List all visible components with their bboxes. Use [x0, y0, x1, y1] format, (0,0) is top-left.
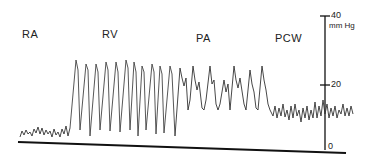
y-tick-label-0: 0 — [328, 141, 333, 151]
pa-trace — [175, 66, 270, 136]
y-tick-label-40: 40 — [331, 10, 341, 20]
label-pa: PA — [196, 32, 211, 44]
rv-trace — [70, 60, 175, 136]
y-tick-label-20: 20 — [331, 79, 341, 89]
y-unit-label: mm Hg — [329, 21, 355, 30]
label-rv: RV — [102, 28, 118, 40]
pressure-tracing-chart — [0, 0, 372, 167]
baseline — [18, 142, 346, 153]
label-pcw: PCW — [275, 32, 302, 44]
pcw-trace — [270, 100, 353, 122]
ra-trace — [20, 126, 70, 137]
label-ra: RA — [22, 28, 38, 40]
